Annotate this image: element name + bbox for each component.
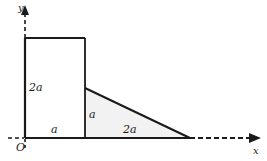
origin-label: O — [16, 142, 25, 153]
dimension-label-bottom-right: 2a — [123, 124, 137, 135]
x-axis-arrowhead — [249, 133, 261, 143]
y-axis-label: y — [18, 3, 24, 13]
geometry-figure: y x O 2a a a 2a — [0, 0, 267, 161]
dimension-label-inner-vertical: a — [89, 109, 96, 120]
dimension-label-bottom-left: a — [51, 124, 58, 135]
dimension-label-left-side: 2a — [29, 82, 43, 93]
x-axis-label: x — [253, 146, 259, 156]
